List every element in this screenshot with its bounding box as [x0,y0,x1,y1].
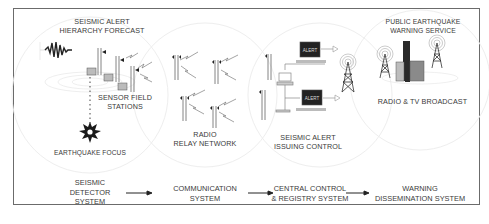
earthquake-focus-icon [79,122,101,143]
stage-central-control: CENTRAL CONTROL & REGISTRY SYSTEM [270,184,350,203]
radio-tower-icon-right [429,35,445,68]
stage-line: SEISMIC [55,178,125,188]
label-public-service: PUBLIC EARTHQUAKE WARNING SERVICE [373,17,473,35]
label-line: SEISMIC ALERT [263,133,353,142]
stage-warning-dissemination: WARNING DISSEMINATION SYSTEM [370,184,470,203]
stage-line: SYSTEM [160,194,250,204]
buildings-icon [396,41,424,82]
radio-tower-icon-left [377,46,393,78]
label-sensor-stations: SENSOR FIELD STATIONS [90,93,160,111]
label-forecast: SEISMIC ALERT HIERARCHY FORECAST [52,17,152,35]
stage-communication: COMMUNICATION SYSTEM [160,184,250,203]
label-line: RADIO [160,130,250,139]
stage-line: SYSTEM [55,197,125,207]
label-earthquake-focus: EARTHQUAKE FOCUS [45,148,135,157]
label-issuing-control: SEISMIC ALERT ISSUING CONTROL [263,133,353,151]
relay-dish-icons [172,55,221,110]
svg-text:ALERT: ALERT [305,96,320,101]
label-line: SEISMIC ALERT [52,17,152,26]
label-line: SENSOR FIELD [90,93,160,102]
label-relay-network: RADIO RELAY NETWORK [160,130,250,148]
label-line: WARNING SERVICE [373,26,473,35]
svg-text:ALERT: ALERT [303,48,318,53]
stage-seismic-detector: SEISMIC DETECTOR SYSTEM [55,178,125,207]
sensor-stations-icon [87,68,127,90]
signal-arrows [126,53,152,82]
label-line: RADIO & TV BROADCAST [365,97,480,106]
label-line: PUBLIC EARTHQUAKE [373,17,473,26]
label-line: HIERARCHY FORECAST [52,26,152,35]
stage-line: CENTRAL CONTROL [270,184,350,194]
relay-masts [175,55,218,128]
stage-line: COMMUNICATION [160,184,250,194]
alert-screen-top: ALERT [296,42,338,63]
relay-signal-arrows [180,52,238,122]
stage-line: DISSEMINATION SYSTEM [370,194,470,204]
label-line: ISSUING CONTROL [263,142,353,151]
sensor-masts [98,48,134,92]
alert-screen-bottom: ALERT [296,90,340,111]
stage-line: WARNING [370,184,470,194]
label-line: EARTHQUAKE FOCUS [45,148,135,157]
radio-tower-icon-control [340,54,356,92]
label-line: RELAY NETWORK [160,139,250,148]
seismogram-icon [40,42,72,60]
stage-line: & REGISTRY SYSTEM [270,194,350,204]
stage-line: DETECTOR [55,188,125,198]
label-line: STATIONS [90,102,160,111]
label-broadcast: RADIO & TV BROADCAST [365,97,480,106]
